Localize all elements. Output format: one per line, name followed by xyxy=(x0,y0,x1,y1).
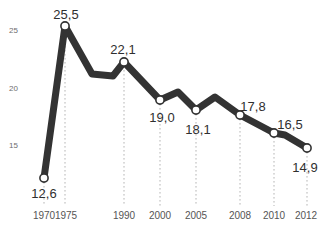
y-tick-25: 25 xyxy=(9,26,18,35)
value-label-2010: 16,5 xyxy=(277,117,302,132)
data-point-2012[interactable] xyxy=(303,144,311,152)
x-tick-2010: 2010 xyxy=(263,210,286,221)
data-point-2005[interactable] xyxy=(192,106,200,114)
x-tick-2008: 2008 xyxy=(229,210,252,221)
y-axis-ticks: 25 20 15 xyxy=(9,26,18,150)
data-line xyxy=(44,26,307,178)
x-tick-1970: 1970 xyxy=(33,210,56,221)
value-label-1975: 25,5 xyxy=(53,7,78,22)
data-point-2000[interactable] xyxy=(156,96,164,104)
x-tick-2005: 2005 xyxy=(185,210,208,221)
value-label-2005: 18,1 xyxy=(185,122,210,137)
value-label-2008: 17,8 xyxy=(240,99,265,114)
x-tick-2000: 2000 xyxy=(149,210,172,221)
data-point-1990[interactable] xyxy=(120,58,128,66)
x-tick-1990: 1990 xyxy=(113,210,136,221)
value-label-1970: 12,6 xyxy=(31,186,56,201)
chart-canvas: 25 20 15 1970 1975 1990 2000 2005 2008 2… xyxy=(0,0,327,232)
value-label-2012: 14,9 xyxy=(292,160,317,175)
data-point-1975[interactable] xyxy=(61,22,69,30)
data-markers xyxy=(40,22,311,182)
value-label-1990: 22,1 xyxy=(110,42,135,57)
value-label-2000: 19,0 xyxy=(149,110,174,125)
y-tick-15: 15 xyxy=(9,141,18,150)
x-tick-2012: 2012 xyxy=(295,210,318,221)
x-axis-ticks: 1970 1975 1990 2000 2005 2008 2010 2012 xyxy=(33,210,318,221)
line-chart: 25 20 15 1970 1975 1990 2000 2005 2008 2… xyxy=(0,0,327,232)
x-tick-1975: 1975 xyxy=(55,210,78,221)
y-tick-20: 20 xyxy=(9,84,18,93)
data-point-1970[interactable] xyxy=(40,174,48,182)
